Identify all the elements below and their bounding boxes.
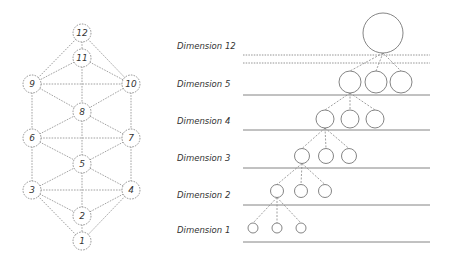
tree-circles (248, 13, 412, 233)
graph-node-2: 2 (73, 207, 91, 225)
node-label: 4 (128, 185, 134, 195)
node-label: 6 (29, 133, 35, 143)
node-label: 5 (79, 159, 85, 169)
dimension-label: Dimension 3 (177, 153, 230, 163)
dimension-label: Dimension 5 (177, 79, 230, 89)
tree-link (325, 128, 349, 149)
tree-link (277, 198, 301, 224)
dimension-circle (295, 185, 308, 198)
dimension-label: Dimension 2 (177, 190, 230, 200)
dimension-circle (319, 185, 332, 198)
dimension-tree: Dimension 12Dimension 5Dimension 4Dimens… (177, 13, 430, 242)
node-label: 11 (76, 53, 87, 63)
tree-link (376, 53, 383, 71)
graph-node-5: 5 (73, 155, 91, 173)
node-label: 7 (128, 133, 134, 143)
tree-link (325, 93, 350, 110)
dimension-labels: Dimension 12Dimension 5Dimension 4Dimens… (177, 41, 236, 235)
dimension-circle (296, 223, 306, 233)
dimension-circle (342, 149, 357, 164)
graph-node-1: 1 (73, 232, 91, 250)
dimension-circle (363, 13, 403, 53)
graph-node-7: 7 (122, 129, 140, 147)
dimension-circle (365, 71, 387, 93)
graph-node-9: 9 (23, 75, 41, 93)
tree-link (301, 164, 302, 185)
tree-link (253, 198, 277, 224)
dimension-circle (316, 110, 334, 128)
dimension-circle (319, 149, 334, 164)
graph-node-6: 6 (23, 129, 41, 147)
dimension-label: Dimension 1 (177, 225, 230, 235)
dimension-circle (272, 223, 282, 233)
dimension-circle (248, 223, 258, 233)
node-label: 9 (29, 79, 35, 89)
dimension-circle (341, 110, 359, 128)
tree-link (277, 164, 302, 185)
graph-node-12: 12 (73, 24, 91, 42)
dimension-circle (366, 110, 384, 128)
dimension-label: Dimension 4 (177, 116, 230, 126)
node-label: 3 (29, 185, 35, 195)
node-label: 1 (79, 236, 85, 246)
node-label: 2 (79, 211, 85, 221)
graph-node-3: 3 (23, 181, 41, 199)
dimension-circle (295, 149, 310, 164)
node-label: 8 (79, 107, 85, 117)
tree-link (383, 53, 401, 71)
dimension-circle (339, 71, 361, 93)
graph-node-10: 10 (122, 75, 140, 93)
tree-link (325, 128, 326, 149)
tree-link (302, 128, 325, 149)
dimensions-diagram: 121191086753421 Dimension 12Dimension 5D… (0, 0, 450, 259)
dimension-circle (271, 185, 284, 198)
dimension-circle (390, 71, 412, 93)
graph-node-11: 11 (73, 49, 91, 67)
dimension-label: Dimension 12 (177, 41, 236, 51)
node-label: 10 (125, 79, 137, 89)
graph-node-4: 4 (122, 181, 140, 199)
node-label: 12 (76, 28, 88, 38)
graph-nodes: 121191086753421 (23, 24, 140, 250)
tree-link (350, 53, 383, 71)
node-graph: 121191086753421 (23, 24, 140, 250)
tree-link (302, 164, 325, 185)
graph-node-8: 8 (73, 103, 91, 121)
tree-link (350, 93, 375, 110)
